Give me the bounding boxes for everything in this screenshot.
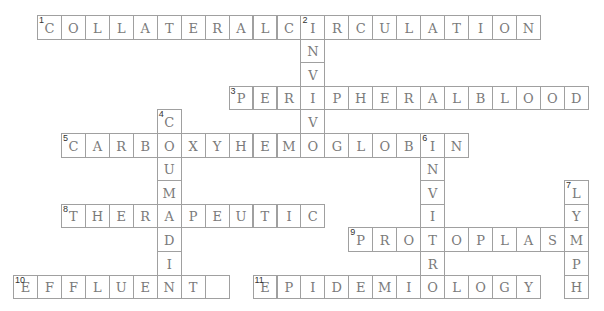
crossword-cell[interactable]: E	[181, 15, 206, 40]
crossword-cell[interactable]: V	[300, 109, 325, 134]
crossword-cell[interactable]: L	[85, 15, 110, 40]
crossword-cell[interactable]: I	[300, 86, 325, 111]
crossword-cell[interactable]: O	[300, 133, 325, 158]
crossword-cell[interactable]: E	[253, 86, 278, 111]
crossword-cell[interactable]: M	[277, 133, 302, 158]
crossword-cell[interactable]: V	[300, 62, 325, 87]
crossword-cell[interactable]: O	[61, 15, 86, 40]
crossword-cell[interactable]: E	[253, 133, 278, 158]
crossword-cell[interactable]: T8	[61, 204, 86, 229]
crossword-cell[interactable]: B	[396, 133, 421, 158]
crossword-cell[interactable]: L	[348, 133, 373, 158]
crossword-cell[interactable]: A	[133, 15, 158, 40]
crossword-cell[interactable]: L	[492, 227, 517, 252]
crossword-cell[interactable]: P	[181, 204, 206, 229]
crossword-cell[interactable]: Y	[516, 275, 541, 300]
crossword-cell[interactable]: U	[157, 157, 182, 182]
crossword-cell[interactable]: H	[229, 133, 254, 158]
crossword-cell[interactable]: I	[300, 275, 325, 300]
crossword-cell[interactable]: G	[324, 133, 349, 158]
crossword-cell[interactable]: F	[61, 275, 86, 300]
crossword-cell[interactable]: N	[157, 275, 182, 300]
crossword-cell[interactable]: X	[181, 133, 206, 158]
crossword-cell[interactable]: O	[492, 15, 517, 40]
crossword-cell[interactable]: A	[420, 15, 445, 40]
crossword-cell[interactable]: H	[348, 86, 373, 111]
crossword-cell[interactable]: I	[420, 204, 445, 229]
crossword-cell[interactable]: T	[444, 15, 469, 40]
crossword-cell[interactable]: O	[396, 227, 421, 252]
crossword-cell[interactable]: T	[420, 227, 445, 252]
crossword-cell[interactable]: T	[157, 15, 182, 40]
crossword-cell[interactable]: U	[229, 204, 254, 229]
crossword-cell[interactable]: R	[396, 86, 421, 111]
crossword-cell[interactable]: R	[372, 227, 397, 252]
crossword-cell[interactable]: I	[277, 204, 302, 229]
crossword-cell[interactable]: E	[205, 204, 230, 229]
crossword-cell[interactable]: A	[229, 15, 254, 40]
crossword-cell[interactable]: R	[277, 86, 302, 111]
crossword-cell[interactable]: L	[253, 15, 278, 40]
crossword-cell[interactable]: O	[444, 227, 469, 252]
crossword-cell[interactable]: T	[253, 204, 278, 229]
crossword-cell[interactable]: P	[324, 86, 349, 111]
crossword-cell[interactable]: E	[372, 86, 397, 111]
crossword-cell[interactable]: C	[277, 15, 302, 40]
crossword-cell[interactable]: O	[540, 86, 565, 111]
crossword-cell[interactable]: H	[85, 204, 110, 229]
crossword-cell[interactable]: A	[157, 204, 182, 229]
crossword-cell[interactable]: L	[85, 275, 110, 300]
crossword-cell[interactable]: N	[444, 133, 469, 158]
crossword-cell[interactable]: B	[468, 86, 493, 111]
crossword-cell[interactable]: L	[492, 86, 517, 111]
crossword-cell[interactable]: L	[109, 15, 134, 40]
crossword-cell[interactable]: P9	[348, 227, 373, 252]
crossword-cell[interactable]: S	[540, 227, 565, 252]
crossword-cell[interactable]: D	[564, 86, 589, 111]
crossword-cell[interactable]: L	[396, 15, 421, 40]
crossword-cell[interactable]: D	[157, 227, 182, 252]
crossword-cell[interactable]: I	[396, 275, 421, 300]
crossword-cell[interactable]: E11	[253, 275, 278, 300]
crossword-cell[interactable]: L7	[564, 180, 589, 205]
crossword-cell[interactable]: E10	[13, 275, 38, 300]
crossword-cell[interactable]: Y	[205, 133, 230, 158]
crossword-cell[interactable]	[205, 275, 230, 300]
crossword-cell[interactable]: O	[372, 133, 397, 158]
crossword-cell[interactable]: F	[37, 275, 62, 300]
crossword-cell[interactable]: N	[516, 15, 541, 40]
crossword-cell[interactable]: O	[468, 275, 493, 300]
crossword-cell[interactable]: P3	[229, 86, 254, 111]
crossword-cell[interactable]: C	[348, 15, 373, 40]
crossword-cell[interactable]: O	[516, 86, 541, 111]
crossword-cell[interactable]: A	[516, 227, 541, 252]
crossword-cell[interactable]: M	[157, 180, 182, 205]
crossword-cell[interactable]: O	[157, 133, 182, 158]
crossword-cell[interactable]: C4	[157, 109, 182, 134]
crossword-cell[interactable]: R	[324, 15, 349, 40]
crossword-cell[interactable]: L	[444, 275, 469, 300]
crossword-cell[interactable]: I6	[420, 133, 445, 158]
crossword-cell[interactable]: L	[444, 86, 469, 111]
crossword-cell[interactable]: I2	[300, 15, 325, 40]
crossword-cell[interactable]: A	[85, 133, 110, 158]
crossword-cell[interactable]: Y	[564, 204, 589, 229]
crossword-cell[interactable]: P	[277, 275, 302, 300]
crossword-cell[interactable]: G	[492, 275, 517, 300]
crossword-cell[interactable]: R	[205, 15, 230, 40]
crossword-cell[interactable]: U	[372, 15, 397, 40]
crossword-cell[interactable]: M	[564, 227, 589, 252]
crossword-cell[interactable]: I	[468, 15, 493, 40]
crossword-cell[interactable]: C5	[61, 133, 86, 158]
crossword-cell[interactable]: P	[468, 227, 493, 252]
crossword-cell[interactable]: P	[564, 251, 589, 276]
crossword-cell[interactable]: E	[109, 204, 134, 229]
crossword-cell[interactable]: O	[420, 275, 445, 300]
crossword-cell[interactable]: R	[133, 204, 158, 229]
crossword-cell[interactable]: B	[133, 133, 158, 158]
crossword-cell[interactable]: R	[420, 251, 445, 276]
crossword-cell[interactable]: T	[181, 275, 206, 300]
crossword-cell[interactable]: M	[372, 275, 397, 300]
crossword-cell[interactable]: C	[300, 204, 325, 229]
crossword-cell[interactable]: U	[109, 275, 134, 300]
